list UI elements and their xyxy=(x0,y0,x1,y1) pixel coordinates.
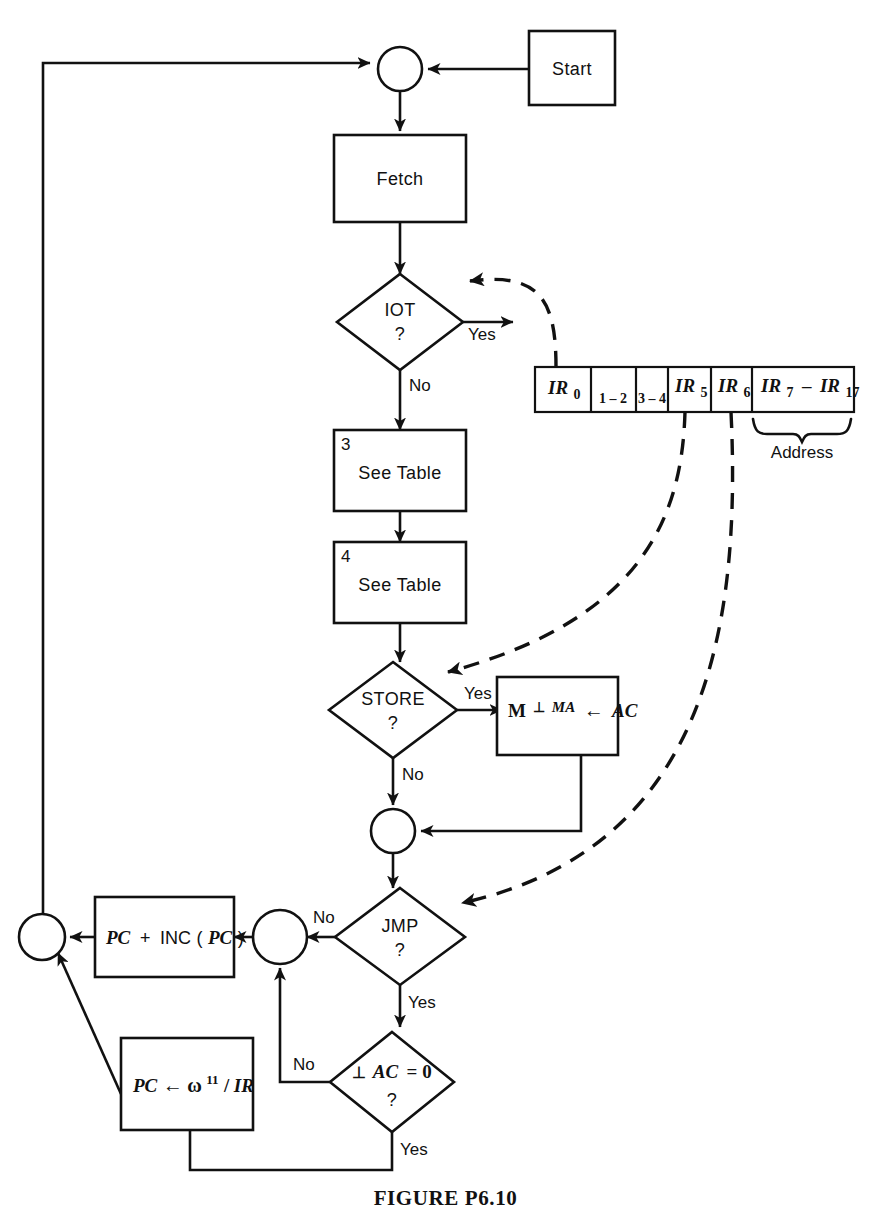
store-action-m: M xyxy=(508,700,526,721)
node-store-question: ? xyxy=(388,713,398,733)
node-fetch-label: Fetch xyxy=(376,169,423,189)
ir-cell-0-name: IR xyxy=(547,377,568,398)
figure-container: Start Fetch IOT ? Yes No 3 See Table 4 S… xyxy=(0,0,891,1207)
pc-omega-ir: IR xyxy=(233,1075,254,1096)
ir-cell-0-sub: 0 xyxy=(574,387,581,402)
node-jmp-label: JMP xyxy=(381,916,418,936)
ac-test-perp: ⊥ xyxy=(352,1064,366,1081)
ir-cell-5-dash: – xyxy=(801,375,812,396)
pc-inc-pc: PC xyxy=(105,927,131,948)
node-jmp-question: ? xyxy=(395,940,405,960)
pc-inc-plus: + xyxy=(140,927,151,948)
address-label: Address xyxy=(771,443,833,462)
junction-start xyxy=(378,47,422,91)
label-jmp-yes: Yes xyxy=(408,993,436,1012)
node-ac-test-diamond xyxy=(330,1032,454,1132)
node-see-table-4-corner: 4 xyxy=(341,547,350,566)
label-ac-test-yes: Yes xyxy=(400,1140,428,1159)
pc-inc-inc: INC xyxy=(160,928,191,948)
node-see-table-3-corner: 3 xyxy=(341,435,350,454)
node-ac-test-question: ? xyxy=(387,1090,397,1110)
ir-cell-4-name: IR xyxy=(717,375,738,396)
ir-cell-5-sub2: 17 xyxy=(845,385,859,400)
store-action-perp: ⊥ xyxy=(533,700,545,715)
store-action-arrow: ← xyxy=(584,699,604,721)
pc-omega-exponent: 11 xyxy=(206,1072,218,1087)
ir-cell-5-name: IR xyxy=(760,375,781,396)
ir-cell-5-sub: 7 xyxy=(787,385,794,400)
node-jmp-diamond xyxy=(335,888,465,985)
edge-loopback-to-start xyxy=(43,63,370,915)
ir-register-cell-2: 3 – 4 xyxy=(638,391,666,406)
pc-inc-open: ( xyxy=(196,928,202,948)
label-store-yes: Yes xyxy=(464,684,492,703)
node-see-table-3-label: See Table xyxy=(358,463,441,483)
node-iot-label: IOT xyxy=(384,300,415,320)
node-store-diamond xyxy=(329,662,457,758)
pc-inc-pc2: PC xyxy=(207,927,233,948)
figure-caption: FIGURE P6.10 xyxy=(0,1186,891,1207)
ir-register-group: IR 0 1 – 2 3 – 4 IR 5 IR 6 IR 7 – xyxy=(535,367,859,462)
ac-test-eq: = 0 xyxy=(407,1061,432,1082)
label-iot-yes: Yes xyxy=(468,325,496,344)
pc-omega-omega: ω xyxy=(187,1074,202,1096)
ir-cell-3-sub: 5 xyxy=(701,385,708,400)
ir-register-cell-1: 1 – 2 xyxy=(599,391,627,406)
address-brace xyxy=(753,419,851,442)
node-iot-question: ? xyxy=(395,324,405,344)
store-action-ma: MA xyxy=(551,699,575,715)
ir-cell-5-name2: IR xyxy=(819,375,840,396)
ir-cell-3-name: IR xyxy=(674,375,695,396)
ac-test-ac: AC xyxy=(372,1061,399,1082)
junction-after-store xyxy=(371,809,415,853)
pc-inc-close: ) xyxy=(238,928,244,948)
pc-omega-pc: PC xyxy=(132,1075,158,1096)
pc-omega-arrow: ← xyxy=(163,1074,183,1096)
node-pc-inc-expression: PC + INC ( PC ) xyxy=(105,927,244,948)
junction-pc-merge xyxy=(253,910,307,964)
pc-omega-slash: / xyxy=(223,1075,230,1096)
label-iot-no: No xyxy=(409,376,431,395)
label-ac-test-no: No xyxy=(293,1055,315,1074)
node-store-label: STORE xyxy=(361,689,425,709)
store-action-ac: AC xyxy=(611,700,638,721)
label-store-no: No xyxy=(402,765,424,784)
node-see-table-4-label: See Table xyxy=(358,575,441,595)
node-iot-diamond xyxy=(337,274,463,370)
flowchart-canvas: Start Fetch IOT ? Yes No 3 See Table 4 S… xyxy=(0,0,891,1207)
dashed-ir5-to-store xyxy=(448,412,685,672)
node-ac-test-expression: ⊥ AC = 0 xyxy=(352,1061,431,1082)
label-jmp-no: No xyxy=(313,908,335,927)
edge-store-action-to-merge xyxy=(421,755,581,831)
node-start-label: Start xyxy=(552,59,592,79)
dashed-ir6-to-jmp xyxy=(462,412,733,903)
ir-cell-4-sub: 6 xyxy=(744,385,751,400)
junction-loop-left xyxy=(19,914,65,960)
